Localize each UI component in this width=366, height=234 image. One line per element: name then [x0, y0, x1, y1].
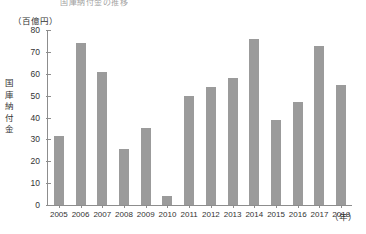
bar-slot — [157, 30, 179, 205]
x-axis-tick-label: 2010 — [157, 210, 179, 219]
bar — [184, 96, 194, 205]
bar-slot — [48, 30, 70, 205]
bar-slot — [287, 30, 309, 205]
y-axis-tick-label: 60 — [14, 69, 40, 79]
y-axis-tick-label: 70 — [14, 47, 40, 57]
bar-slot — [113, 30, 135, 205]
y-axis-tick-label: 0 — [14, 200, 40, 210]
x-axis-tick-label: 2017 — [309, 210, 331, 219]
bar-slot — [70, 30, 92, 205]
bar — [119, 149, 129, 205]
y-axis-tick-label: 20 — [14, 156, 40, 166]
x-axis-tick — [81, 205, 82, 208]
x-axis-tick-label: 2014 — [243, 210, 265, 219]
y-axis-title-char: 納 — [4, 101, 15, 113]
x-axis-tick — [276, 205, 277, 208]
y-axis-tick-label: 50 — [14, 91, 40, 101]
bar — [249, 39, 259, 205]
bar — [162, 196, 172, 205]
x-axis-tick-label: 2015 — [265, 210, 287, 219]
y-axis-title-char: 国 — [4, 78, 15, 90]
x-axis-tick — [319, 205, 320, 208]
x-axis-tick — [233, 205, 234, 208]
x-axis-tick — [211, 205, 212, 208]
bar-slot — [330, 30, 352, 205]
y-axis-tick-label: 30 — [14, 134, 40, 144]
bar — [271, 120, 281, 205]
bar-slot — [243, 30, 265, 205]
x-axis-labels: 2005200620072008200920102011201220132014… — [48, 210, 352, 219]
bar-slot — [222, 30, 244, 205]
chart-figure: 国庫納付金の推移 （百億円） 国庫納付金 01020304050607080 2… — [0, 0, 366, 234]
bar-series — [48, 30, 352, 205]
x-axis-tick-label: 2013 — [222, 210, 244, 219]
x-axis-tick-label: 2005 — [48, 210, 70, 219]
x-axis-tick — [254, 205, 255, 208]
x-axis-tick — [341, 205, 342, 208]
bar — [97, 72, 107, 205]
bar-slot — [265, 30, 287, 205]
bar-slot — [91, 30, 113, 205]
x-axis-tick-label: 2006 — [70, 210, 92, 219]
bar — [76, 43, 86, 205]
y-axis-tick-label: 10 — [14, 178, 40, 188]
x-axis-tick-label: 2016 — [287, 210, 309, 219]
bar — [293, 102, 303, 205]
bar — [141, 128, 151, 205]
x-axis-tick — [298, 205, 299, 208]
bar-slot — [200, 30, 222, 205]
y-axis-tick — [46, 205, 51, 206]
figure-title: 国庫納付金の推移 — [60, 0, 128, 7]
x-axis-line — [47, 205, 352, 206]
bar-slot — [178, 30, 200, 205]
y-axis-title: 国庫納付金 — [4, 78, 15, 136]
x-axis-unit-label: （年） — [330, 210, 357, 222]
x-axis-tick — [167, 205, 168, 208]
bar — [314, 46, 324, 205]
x-axis-tick — [102, 205, 103, 208]
x-axis-tick-label: 2008 — [113, 210, 135, 219]
x-axis-tick — [189, 205, 190, 208]
bar — [54, 136, 64, 205]
bar — [228, 78, 238, 205]
x-axis-tick-label: 2007 — [91, 210, 113, 219]
bar — [206, 87, 216, 205]
x-axis-tick — [124, 205, 125, 208]
bar-slot — [135, 30, 157, 205]
x-axis-tick-label: 2012 — [200, 210, 222, 219]
x-axis-tick-label: 2011 — [178, 210, 200, 219]
plot-area: 01020304050607080 — [47, 30, 352, 206]
x-axis-tick-label: 2009 — [135, 210, 157, 219]
x-axis-tick — [59, 205, 60, 208]
x-axis-tick — [146, 205, 147, 208]
y-axis-tick-label: 80 — [14, 25, 40, 35]
bar-slot — [309, 30, 331, 205]
y-axis-tick-label: 40 — [14, 113, 40, 123]
bar — [336, 85, 346, 205]
